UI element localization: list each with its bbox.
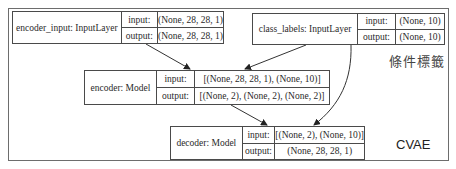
- input-key: input:: [243, 127, 275, 143]
- node-class-labels: class_labels: InputLayer input: output: …: [252, 13, 445, 45]
- node-label: encoder: Model: [85, 71, 157, 104]
- condition-label-annotation: 條件標籤: [389, 51, 445, 70]
- input-key: input:: [157, 71, 194, 87]
- edge-class_labels-to-encoder: [245, 45, 306, 69]
- output-key: output:: [358, 29, 395, 45]
- output-shape: [(None, 2), (None, 2), (None, 2)]: [195, 87, 329, 104]
- output-key: output:: [122, 27, 158, 43]
- edge-encoder-to-decoder: [231, 105, 267, 125]
- input-shape: (None, 10): [396, 14, 444, 29]
- node-encoder-input: encoder_input: InputLayer input: output:…: [12, 11, 224, 44]
- input-shape: [(None, 2), (None, 10)]: [275, 127, 364, 143]
- input-shape: [(None, 28, 28, 1), (None, 10)]: [195, 71, 329, 87]
- node-label: encoder_input: InputLayer: [13, 12, 122, 43]
- output-shape: (None, 28, 28, 1): [275, 143, 364, 160]
- input-key: input:: [358, 14, 395, 29]
- output-shape: (None, 28, 28, 1): [158, 27, 223, 43]
- node-encoder: encoder: Model input: output: [(None, 28…: [84, 70, 330, 105]
- edge-encoder_input-to-encoder: [146, 44, 190, 69]
- output-key: output:: [157, 87, 194, 104]
- node-label: class_labels: InputLayer: [253, 14, 358, 44]
- diagram-title: CVAE: [396, 137, 430, 152]
- output-shape: (None, 10): [396, 29, 444, 45]
- input-shape: (None, 28, 28, 1): [158, 12, 223, 27]
- node-label: decoder: Model: [171, 127, 243, 159]
- input-key: input:: [122, 12, 158, 27]
- output-key: output:: [243, 143, 275, 160]
- node-decoder: decoder: Model input: output: [(None, 2)…: [170, 126, 365, 160]
